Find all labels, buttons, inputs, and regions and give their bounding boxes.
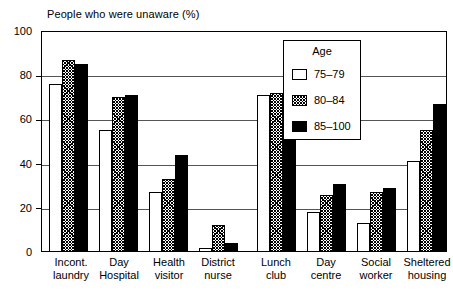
legend-swatch-icon-80-84 <box>292 95 307 106</box>
bar-health-visitor-80-84 <box>162 179 175 252</box>
bar-district-nurse-85-100 <box>225 243 238 252</box>
legend-label-75-79: 75–79 <box>314 68 345 80</box>
bar-health-visitor-85-100 <box>175 155 188 252</box>
bar-district-nurse-75-79 <box>199 248 212 252</box>
y-tick-label-20: 20 <box>0 203 32 214</box>
y-tick-label-0: 0 <box>0 247 32 258</box>
bar-day-centre-85-100 <box>333 184 346 253</box>
legend: Age 75–79 80–84 85–100 <box>283 40 361 140</box>
bar-health-visitor-75-79 <box>149 192 162 252</box>
bar-social-worker-80-84 <box>370 192 383 252</box>
bar-day-centre-75-79 <box>307 212 320 252</box>
bar-sheltered-housing-80-84 <box>420 130 433 252</box>
legend-entry-85-100: 85–100 <box>292 119 351 133</box>
legend-swatch-icon-75-79 <box>292 69 307 80</box>
bar-day-centre-80-84 <box>320 195 333 252</box>
y-tick-label-100: 100 <box>0 26 32 37</box>
bar-day-hospital-80-84 <box>112 97 125 252</box>
bar-incont-laundry-80-84 <box>62 60 75 252</box>
bar-social-worker-85-100 <box>383 188 396 252</box>
y-tick-label-60: 60 <box>0 114 32 125</box>
x-label-sheltered-housing: Sheltered housing <box>389 256 453 282</box>
y-tick-label-40: 40 <box>0 159 32 170</box>
bar-chart: People who were unaware (%) 100 80 60 40… <box>0 0 453 304</box>
bar-day-hospital-85-100 <box>125 95 138 252</box>
bars-layer <box>41 31 447 252</box>
y-tick-label-80: 80 <box>0 70 32 81</box>
bar-sheltered-housing-85-100 <box>433 104 446 252</box>
bar-social-worker-75-79 <box>357 223 370 252</box>
x-axis-labels: Incont. laundry Day Hospital Health visi… <box>41 256 447 302</box>
bar-lunch-club-80-84 <box>270 93 283 252</box>
legend-entry-75-79: 75–79 <box>292 67 345 81</box>
legend-title: Age <box>284 45 360 57</box>
bar-day-hospital-75-79 <box>99 130 112 252</box>
bar-incont-laundry-75-79 <box>49 84 62 252</box>
bar-sheltered-housing-75-79 <box>407 161 420 252</box>
legend-swatch-icon-85-100 <box>292 121 307 132</box>
bar-lunch-club-75-79 <box>257 95 270 252</box>
bar-incont-laundry-85-100 <box>75 64 88 252</box>
legend-label-85-100: 85–100 <box>314 120 351 132</box>
bar-district-nurse-80-84 <box>212 225 225 252</box>
legend-label-80-84: 80–84 <box>314 94 345 106</box>
legend-entry-80-84: 80–84 <box>292 93 345 107</box>
